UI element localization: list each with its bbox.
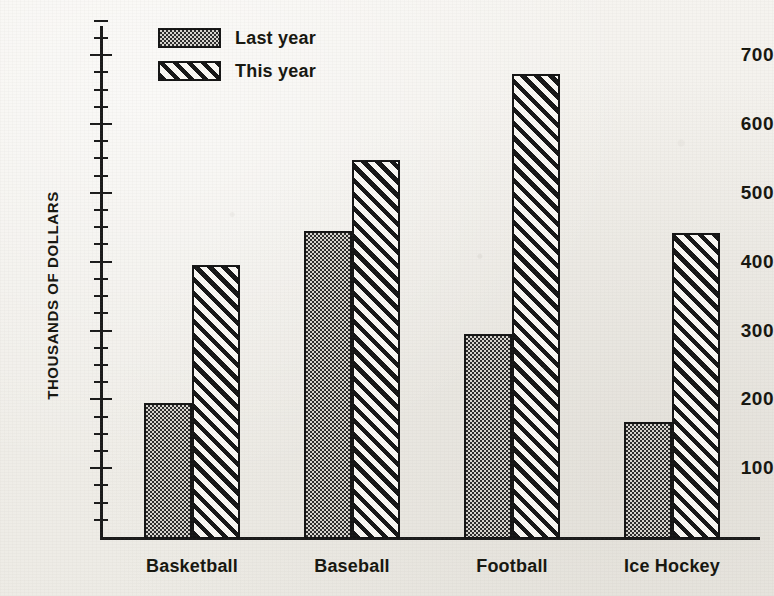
y-tick-minor bbox=[94, 347, 108, 349]
y-tick-major bbox=[90, 123, 112, 125]
y-tick-major bbox=[90, 192, 112, 194]
bar bbox=[624, 422, 672, 539]
y-tick-major bbox=[90, 398, 112, 400]
y-axis-line bbox=[100, 26, 103, 540]
category-label: Ice Hockey bbox=[624, 556, 720, 577]
y-tick-minor bbox=[94, 484, 108, 486]
chart-legend: Last yearThis year bbox=[158, 24, 316, 90]
y-tick-label: 700 bbox=[708, 44, 774, 66]
category-label: Basketball bbox=[146, 556, 238, 577]
y-tick-minor bbox=[94, 89, 108, 91]
bar bbox=[304, 231, 352, 539]
legend-item: This year bbox=[158, 57, 316, 85]
y-tick-minor bbox=[94, 157, 108, 159]
y-tick-minor bbox=[94, 243, 108, 245]
y-tick-minor bbox=[94, 71, 108, 73]
y-tick-minor bbox=[94, 381, 108, 383]
y-tick-minor bbox=[94, 364, 108, 366]
category-label: Baseball bbox=[314, 556, 390, 577]
bar bbox=[144, 403, 192, 539]
bar bbox=[512, 74, 560, 539]
bar bbox=[192, 265, 240, 539]
y-tick-minor bbox=[94, 295, 108, 297]
legend-swatch bbox=[158, 61, 221, 81]
legend-label: This year bbox=[235, 61, 316, 82]
y-tick-minor bbox=[94, 20, 108, 22]
legend-item: Last year bbox=[158, 24, 316, 52]
bar bbox=[352, 160, 400, 539]
y-tick-minor bbox=[94, 106, 108, 108]
y-tick-minor bbox=[94, 226, 108, 228]
bar bbox=[464, 334, 512, 539]
bar bbox=[672, 233, 720, 539]
y-tick-minor bbox=[94, 175, 108, 177]
y-tick-minor bbox=[94, 519, 108, 521]
y-axis-title: THOUSANDS OF DOLLARS bbox=[44, 166, 61, 426]
y-tick-label: 600 bbox=[708, 113, 774, 135]
y-tick-major bbox=[90, 261, 112, 263]
y-tick-minor bbox=[94, 37, 108, 39]
y-tick-minor bbox=[94, 416, 108, 418]
y-tick-label: 500 bbox=[708, 182, 774, 204]
y-tick-minor bbox=[94, 140, 108, 142]
y-tick-minor bbox=[94, 433, 108, 435]
bar-chart: 100200300400500600700 THOUSANDS OF DOLLA… bbox=[0, 0, 774, 596]
y-tick-minor bbox=[94, 312, 108, 314]
y-tick-major bbox=[90, 54, 112, 56]
legend-swatch bbox=[158, 28, 221, 48]
y-tick-major bbox=[90, 467, 112, 469]
y-tick-minor bbox=[94, 450, 108, 452]
legend-label: Last year bbox=[235, 28, 316, 49]
y-tick-minor bbox=[94, 502, 108, 504]
y-tick-minor bbox=[94, 209, 108, 211]
category-label: Football bbox=[476, 556, 548, 577]
y-tick-major bbox=[90, 330, 112, 332]
y-tick-minor bbox=[94, 278, 108, 280]
